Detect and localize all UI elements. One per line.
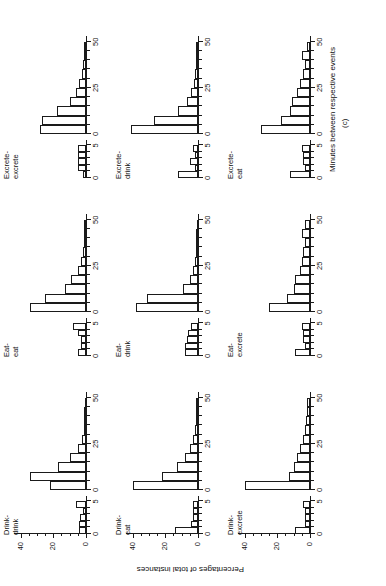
panel-title-excrete-eat: Excrete- eat bbox=[227, 151, 244, 179]
xticklabel-eat-excrete-main-1: 25 bbox=[316, 256, 324, 276]
xtick-drink-drink-main-15 bbox=[87, 461, 90, 462]
xtick-eat-eat-main-15 bbox=[87, 283, 90, 284]
ytick-drink-drink-40 bbox=[21, 534, 22, 538]
xticklabel-drink-eat-main-0: 0 bbox=[204, 480, 212, 500]
xtick-drink-eat-main-15 bbox=[199, 461, 202, 462]
xtick-excrete-drink-main-15 bbox=[199, 105, 202, 106]
bar-excrete-excrete-inset-3 bbox=[78, 152, 86, 159]
xtick-drink-eat-main-35 bbox=[199, 424, 202, 425]
ytick-drink-excrete-5 bbox=[302, 534, 303, 537]
xtick-excrete-drink-main-45 bbox=[199, 50, 202, 51]
xtick-eat-excrete-inset-2 bbox=[311, 342, 314, 343]
ytick-drink-eat-35 bbox=[141, 534, 142, 537]
xticklabel-eat-drink-main-1: 25 bbox=[204, 256, 212, 276]
xtick-excrete-excrete-inset-4 bbox=[87, 151, 90, 152]
bar-excrete-excrete-main-5 bbox=[79, 79, 86, 88]
xticklabel-excrete-eat-inset-0: 0 bbox=[316, 168, 324, 188]
bar-excrete-eat-main-2 bbox=[290, 106, 310, 115]
bar-excrete-excrete-main-2 bbox=[57, 106, 86, 115]
xtick-excrete-excrete-main-45 bbox=[87, 50, 90, 51]
xtick-eat-drink-inset-4 bbox=[199, 329, 202, 330]
figure-rotation-wrapper: Drink- drink050255002040Eat- eat0502550E… bbox=[0, 0, 386, 586]
xtick-drink-excrete-main-5 bbox=[311, 480, 314, 481]
xticklabel-drink-eat-main-2: 50 bbox=[204, 388, 212, 408]
bar-eat-excrete-main-3 bbox=[295, 275, 310, 284]
bar-excrete-drink-main-0 bbox=[131, 125, 198, 134]
xtick-drink-eat-main-45 bbox=[199, 406, 202, 407]
bar-eat-drink-main-0 bbox=[136, 303, 198, 312]
xtick-drink-drink-main-35 bbox=[87, 424, 90, 425]
panel-title-eat-drink: Eat- drink bbox=[115, 341, 132, 357]
xtick-eat-eat-main-45 bbox=[87, 228, 90, 229]
panel-title-eat-excrete: Eat- excrete bbox=[227, 332, 244, 357]
bar-drink-eat-main-1 bbox=[162, 472, 198, 481]
ytick-drink-drink-30 bbox=[37, 534, 38, 537]
figure-label: (c) bbox=[340, 119, 349, 128]
bar-excrete-excrete-inset-4 bbox=[78, 145, 86, 152]
bar-eat-eat-inset-4 bbox=[73, 323, 86, 330]
bar-excrete-eat-inset-3 bbox=[303, 152, 310, 159]
bar-drink-excrete-main-5 bbox=[303, 435, 310, 444]
bar-drink-eat-main-4 bbox=[190, 444, 198, 453]
bar-eat-excrete-inset-2 bbox=[303, 336, 310, 343]
xticklabel-excrete-drink-main-0: 0 bbox=[204, 124, 212, 144]
xticklabel-eat-drink-main-2: 50 bbox=[204, 210, 212, 230]
xticklabel-excrete-eat-main-2: 50 bbox=[316, 32, 324, 52]
panel-title-eat-eat: Eat- eat bbox=[3, 343, 20, 357]
xtick-eat-drink-main-40 bbox=[199, 237, 202, 238]
xtick-eat-excrete-inset-3 bbox=[311, 335, 314, 336]
xtick-eat-excrete-main-35 bbox=[311, 246, 314, 247]
yticklabel-drink-excrete-1: 20 bbox=[273, 542, 281, 564]
xtick-excrete-drink-inset-3 bbox=[199, 157, 202, 158]
xtick-eat-excrete-main-30 bbox=[311, 256, 314, 257]
bar-excrete-eat-inset-2 bbox=[303, 158, 310, 165]
xtick-eat-drink-main-35 bbox=[199, 246, 202, 247]
xtick-excrete-eat-inset-4 bbox=[311, 151, 314, 152]
xticklabel-drink-eat-inset-0: 0 bbox=[204, 524, 212, 544]
xtick-drink-excrete-main-40 bbox=[311, 415, 314, 416]
panel-title-excrete-excrete: Excrete- excrete bbox=[3, 151, 20, 179]
ytick-drink-excrete-30 bbox=[261, 534, 262, 537]
xtick-drink-drink-main-20 bbox=[87, 452, 90, 453]
bar-excrete-drink-main-1 bbox=[154, 116, 198, 125]
yticklabel-drink-eat-0: 0 bbox=[194, 542, 202, 564]
xtick-excrete-drink-main-20 bbox=[199, 96, 202, 97]
bar-drink-drink-inset-1 bbox=[79, 521, 86, 528]
xtick-eat-excrete-main-15 bbox=[311, 283, 314, 284]
xtick-eat-drink-main-10 bbox=[199, 293, 202, 294]
bar-excrete-drink-inset-0 bbox=[178, 171, 198, 178]
xtick-eat-drink-main-30 bbox=[199, 256, 202, 257]
bar-excrete-eat-main-4 bbox=[297, 88, 310, 97]
bar-excrete-drink-main-2 bbox=[178, 106, 198, 115]
bar-excrete-eat-inset-0 bbox=[290, 171, 310, 178]
xtick-drink-excrete-main-15 bbox=[311, 461, 314, 462]
xtick-drink-eat-main-20 bbox=[199, 452, 202, 453]
xtick-excrete-drink-inset-1 bbox=[199, 170, 202, 171]
xtick-excrete-drink-inset-4 bbox=[199, 151, 202, 152]
panel-title-drink-eat: Drink- eat bbox=[115, 515, 132, 535]
bar-eat-excrete-main-1 bbox=[287, 294, 310, 303]
y-axis-title: Percentages of total instances bbox=[137, 565, 244, 574]
bar-drink-drink-main-2 bbox=[58, 462, 86, 471]
bar-drink-excrete-main-0 bbox=[245, 481, 310, 490]
ytick-drink-excrete-0 bbox=[310, 534, 311, 538]
bar-eat-eat-main-4 bbox=[78, 266, 86, 275]
xtick-drink-eat-inset-3 bbox=[199, 513, 202, 514]
xtick-drink-drink-main-30 bbox=[87, 434, 90, 435]
bar-drink-drink-inset-4 bbox=[76, 501, 86, 508]
xtick-excrete-excrete-main-35 bbox=[87, 68, 90, 69]
xtick-drink-eat-main-40 bbox=[199, 415, 202, 416]
ytick-drink-drink-10 bbox=[70, 534, 71, 537]
bar-excrete-excrete-inset-1 bbox=[78, 165, 86, 172]
xtick-eat-drink-inset-3 bbox=[199, 335, 202, 336]
bar-eat-drink-inset-0 bbox=[185, 349, 198, 356]
x-axis-title: Minutes between respective events bbox=[328, 47, 337, 172]
xtick-drink-drink-inset-1 bbox=[87, 526, 90, 527]
xtick-drink-drink-inset-4 bbox=[87, 507, 90, 508]
xtick-excrete-excrete-main-5 bbox=[87, 124, 90, 125]
xticklabel-excrete-drink-inset-0: 0 bbox=[204, 168, 212, 188]
xtick-drink-eat-main-30 bbox=[199, 434, 202, 435]
xticklabel-excrete-drink-main-2: 50 bbox=[204, 32, 212, 52]
xtick-drink-eat-main-5 bbox=[199, 480, 202, 481]
xtick-excrete-excrete-main-20 bbox=[87, 96, 90, 97]
